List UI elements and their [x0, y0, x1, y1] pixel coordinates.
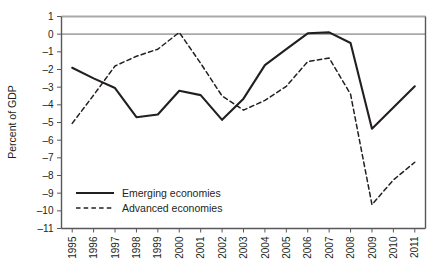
y-tick-label: –6: [42, 135, 54, 146]
y-tick-label: –10: [37, 205, 54, 216]
x-tick-label: 2000: [174, 236, 185, 259]
x-tick-label: 2006: [302, 236, 313, 259]
x-tick-label: 1996: [88, 236, 99, 259]
y-tick-label: –8: [42, 170, 54, 181]
x-tick-label: 1995: [67, 236, 78, 259]
x-tick-label: 2005: [281, 236, 292, 259]
x-tick-label: 2007: [324, 236, 335, 259]
y-tick-label: –5: [42, 117, 54, 128]
x-tick-label: 2001: [195, 236, 206, 259]
x-tick-label: 2009: [367, 236, 378, 259]
x-tick-label: 2003: [238, 236, 249, 259]
x-tick-label: 2010: [388, 236, 399, 259]
y-tick-label: –7: [42, 152, 54, 163]
y-tick-label: –11: [38, 223, 54, 234]
legend-label: Advanced economies: [122, 202, 222, 214]
y-tick-label: –9: [42, 188, 54, 199]
x-tick-label: 1998: [131, 236, 142, 259]
y-tick-label: –1: [42, 46, 54, 57]
x-tick-label: 2011: [409, 236, 420, 258]
x-tick-label: 2008: [345, 236, 356, 259]
line-chart: Percent of GDP 10–1–2–3–4–5–6–7–8–9–10–1…: [0, 0, 438, 271]
x-tick-label: 1999: [152, 236, 163, 259]
y-axis-title-text: Percent of GDP: [6, 85, 18, 159]
x-tick-label: 1997: [110, 236, 121, 259]
y-axis-title: Percent of GDP: [6, 85, 18, 159]
y-tick-label: 0: [48, 29, 54, 40]
y-tick-label: –2: [42, 64, 54, 75]
y-tick-label: –3: [42, 82, 54, 93]
chart-figure: Percent of GDP 10–1–2–3–4–5–6–7–8–9–10–1…: [0, 0, 438, 271]
x-tick-label: 2002: [217, 236, 228, 259]
x-tick-label: 2004: [260, 236, 271, 259]
legend-label: Emerging economies: [122, 187, 221, 199]
y-tick-label: –4: [42, 99, 54, 110]
y-tick-label: 1: [48, 11, 54, 22]
